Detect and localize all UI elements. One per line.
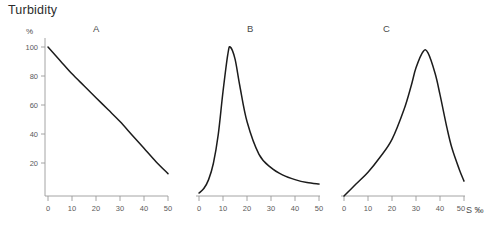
panel-b-curve	[199, 47, 319, 193]
panel-c-x-tick-50: 50	[457, 204, 465, 213]
panel-b-x-ticks: 0 10 20 30 40 50	[197, 196, 323, 213]
panel-b-x-tick-0: 0	[197, 204, 201, 213]
panel-c-x-ticks: 0 10 20 30 40 50	[342, 196, 465, 213]
panel-b-x-tick-40: 40	[291, 204, 299, 213]
panel-a-x-ticks: 0 10 20 30 40 50	[46, 196, 172, 213]
panel-b-x-tick-20: 20	[243, 204, 251, 213]
y-tick-label-100: 100	[25, 43, 38, 52]
panel-a: 100 80 60 40 20 0 10 20 30 40 50	[25, 38, 172, 213]
panel-a-x-tick-10: 10	[68, 204, 76, 213]
panel-b-x-tick-50: 50	[315, 204, 323, 213]
panel-b-x-tick-30: 30	[267, 204, 275, 213]
panel-c-x-tick-0: 0	[342, 204, 346, 213]
plot-canvas: 100 80 60 40 20 0 10 20 30 40 50	[0, 0, 493, 229]
panel-a-x-tick-30: 30	[116, 204, 124, 213]
panel-a-curve	[48, 47, 168, 174]
panel-c-x-tick-20: 20	[388, 204, 396, 213]
y-tick-label-20: 20	[30, 159, 38, 168]
panel-c-x-tick-10: 10	[364, 204, 372, 213]
panel-b-x-tick-10: 10	[219, 204, 227, 213]
panel-b: 0 10 20 30 40 50	[196, 47, 323, 213]
figure-root: Turbidity % A B C S ‰ 100 80 60 40 20	[0, 0, 493, 229]
panel-c: 0 10 20 30 40 50	[341, 50, 465, 213]
panel-c-x-tick-30: 30	[412, 204, 420, 213]
panel-a-y-ticks: 100 80 60 40 20	[25, 43, 45, 168]
panel-a-x-tick-50: 50	[164, 204, 172, 213]
y-tick-label-40: 40	[30, 130, 38, 139]
panel-c-x-tick-40: 40	[436, 204, 444, 213]
panel-c-curve	[344, 50, 464, 196]
y-tick-label-80: 80	[30, 72, 38, 81]
panel-a-x-tick-40: 40	[140, 204, 148, 213]
panel-a-x-tick-0: 0	[46, 204, 50, 213]
panel-a-x-tick-20: 20	[92, 204, 100, 213]
y-tick-label-60: 60	[30, 101, 38, 110]
